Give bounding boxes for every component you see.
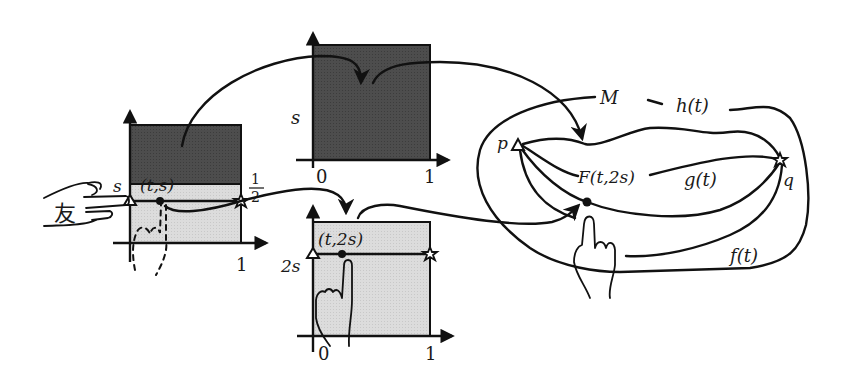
top-x-tick-0: 0 <box>316 166 327 187</box>
bottom-point-label: (t,2s) <box>318 229 363 249</box>
curve-f <box>520 150 782 256</box>
dot-marker-icon <box>156 197 164 205</box>
q-label: q <box>783 170 794 190</box>
bottom-2s-label: 2s <box>280 256 301 276</box>
p-label: p <box>497 133 508 153</box>
left-plot: s (t,s) 1 2 1 <box>113 112 266 275</box>
F-label: F(t,2s) <box>577 167 635 187</box>
bottom-plot: (t,2s) 2s 0 1 <box>280 207 452 364</box>
hand-kanji: 友 <box>54 201 76 226</box>
g-curve-label: g(t) <box>684 169 717 190</box>
f-curve-label: f(t) <box>728 245 758 266</box>
manifold-label: M <box>599 87 619 108</box>
manifold-boundary <box>477 97 808 272</box>
manifold-M: M h(t) p q F(t,2s) g(t) f(t) <box>477 87 808 298</box>
boundary-segment <box>648 100 662 104</box>
left-x-tick-1: 1 <box>236 254 247 275</box>
pointing-hand-right-icon <box>574 217 615 299</box>
F-dot-icon <box>583 198 592 207</box>
arrow-bottom-to-manifold <box>358 205 578 224</box>
curve-g <box>523 146 780 176</box>
top-x-tick-1: 1 <box>424 166 435 187</box>
left-point-label: (t,s) <box>140 175 174 195</box>
bottom-x-tick-0: 0 <box>318 343 329 364</box>
homotopy-diagram: s (t,s) 1 2 1 友 s 0 1 (t,2s) 2s 0 1 <box>0 0 846 389</box>
half-numerator: 1 <box>251 171 260 187</box>
top-s-label: s <box>291 107 300 128</box>
left-s-label: s <box>113 176 122 196</box>
dot-marker-icon <box>338 250 346 258</box>
curve-F <box>521 148 780 216</box>
curve-upper <box>523 128 780 158</box>
h-curve-label: h(t) <box>676 95 709 116</box>
bottom-x-tick-1: 1 <box>425 343 436 364</box>
